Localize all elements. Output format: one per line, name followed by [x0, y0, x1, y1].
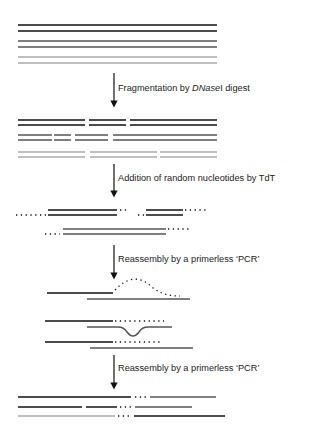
- tailed-fragments: [16, 210, 208, 234]
- step-2-label: Addition of random nucleotides by TdT: [118, 173, 275, 183]
- parental-genes: [18, 25, 217, 63]
- step-1-label: Fragmentation by DNaseI digest: [118, 83, 250, 93]
- shuffled-chimeras: [18, 397, 225, 416]
- step-4-label: Reassembly by a primerless ‘PCR’: [118, 363, 259, 373]
- extension-loop: [45, 321, 193, 348]
- step-3-label: Reassembly by a primerless ‘PCR’: [118, 254, 259, 264]
- dnase-fragments: [18, 120, 217, 157]
- annealed-mismatch: [47, 279, 190, 299]
